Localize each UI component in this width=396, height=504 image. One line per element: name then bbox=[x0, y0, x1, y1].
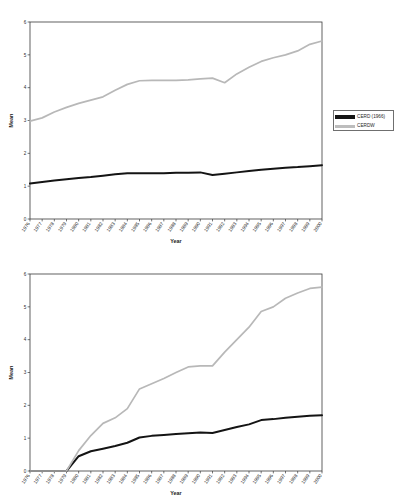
y-tick-label: 4 bbox=[24, 85, 27, 90]
x-tick-label: 1983 bbox=[106, 221, 116, 233]
x-axis-title: Year bbox=[170, 238, 182, 244]
x-tick-label: 1982 bbox=[94, 473, 104, 485]
x-tick-label: 1978 bbox=[45, 473, 55, 485]
legend-label-cerd: CERD (1966) bbox=[357, 114, 385, 120]
x-tick-label: 1981 bbox=[81, 221, 91, 233]
x-tick-label: 1982 bbox=[94, 221, 104, 233]
x-tick-label: 1988 bbox=[167, 473, 177, 485]
y-tick-label: 4 bbox=[24, 337, 27, 342]
y-tick-label: 3 bbox=[24, 370, 27, 375]
x-tick-label: 1989 bbox=[179, 473, 189, 485]
x-tick-label: 1994 bbox=[240, 221, 250, 233]
x-tick-label: 1976 bbox=[21, 473, 31, 485]
x-tick-label: 1985 bbox=[130, 473, 140, 485]
x-tick-label: 1997 bbox=[276, 473, 286, 485]
x-tick-label: 1996 bbox=[264, 221, 274, 233]
x-tick-label: 1987 bbox=[154, 221, 164, 233]
x-tick-label: 1980 bbox=[69, 221, 79, 233]
x-tick-label: 1977 bbox=[33, 473, 43, 485]
legend-label-cerdw: CERDW bbox=[357, 123, 375, 129]
y-axis-title: Mean bbox=[8, 366, 14, 380]
x-tick-label: 1998 bbox=[288, 473, 298, 485]
y-tick-label: 1 bbox=[24, 436, 27, 441]
x-axis-title: Year bbox=[170, 490, 182, 496]
x-tick-label: 1997 bbox=[276, 221, 286, 233]
cedaw-figure: 0123456Mean19761977197819791980198119821… bbox=[0, 252, 396, 504]
plot-frame bbox=[30, 22, 322, 219]
legend-swatch-cerdw bbox=[335, 125, 355, 128]
cerd-figure: 0123456Mean19761977197819791980198119821… bbox=[0, 0, 396, 252]
x-tick-label: 2000 bbox=[313, 473, 323, 485]
x-tick-label: 2000 bbox=[313, 221, 323, 233]
x-tick-label: 1999 bbox=[300, 221, 310, 233]
x-tick-label: 1986 bbox=[142, 473, 152, 485]
x-tick-label: 1992 bbox=[215, 473, 225, 485]
x-tick-label: 1981 bbox=[81, 473, 91, 485]
x-tick-label: 1993 bbox=[227, 473, 237, 485]
x-tick-label: 1994 bbox=[240, 473, 250, 485]
x-tick-label: 1984 bbox=[118, 221, 128, 233]
x-tick-label: 1996 bbox=[264, 473, 274, 485]
y-tick-label: 5 bbox=[24, 53, 27, 58]
y-tick-label: 6 bbox=[24, 272, 27, 277]
x-tick-label: 1991 bbox=[203, 473, 213, 485]
legend-swatch-cerd bbox=[335, 115, 355, 119]
y-tick-label: 2 bbox=[24, 151, 27, 156]
x-tick-label: 1984 bbox=[118, 473, 128, 485]
y-tick-label: 1 bbox=[24, 184, 27, 189]
x-tick-label: 1979 bbox=[57, 221, 67, 233]
x-tick-label: 1986 bbox=[142, 221, 152, 233]
x-tick-label: 1983 bbox=[106, 473, 116, 485]
x-tick-label: 1980 bbox=[69, 473, 79, 485]
x-tick-label: 1988 bbox=[167, 221, 177, 233]
y-tick-label: 5 bbox=[24, 305, 27, 310]
y-axis-title: Mean bbox=[8, 114, 14, 128]
x-tick-label: 1985 bbox=[130, 221, 140, 233]
cerd-legend: CERD (1966) CERDW bbox=[333, 110, 394, 131]
x-tick-label: 1989 bbox=[179, 221, 189, 233]
legend-entry-cerd: CERD (1966) bbox=[335, 113, 391, 121]
x-tick-label: 1998 bbox=[288, 221, 298, 233]
legend-entry-cerdw: CERDW bbox=[335, 122, 391, 130]
x-tick-label: 1990 bbox=[191, 473, 201, 485]
cedaw-chart-canvas: 0123456Mean19761977197819791980198119821… bbox=[0, 252, 396, 504]
x-tick-label: 1987 bbox=[154, 473, 164, 485]
y-tick-label: 2 bbox=[24, 403, 27, 408]
x-tick-label: 1990 bbox=[191, 221, 201, 233]
x-tick-label: 1995 bbox=[252, 473, 262, 485]
y-tick-label: 6 bbox=[24, 20, 27, 25]
x-tick-label: 1978 bbox=[45, 221, 55, 233]
x-tick-label: 1999 bbox=[300, 473, 310, 485]
x-tick-label: 1977 bbox=[33, 221, 43, 233]
y-tick-label: 3 bbox=[24, 118, 27, 123]
x-tick-label: 1995 bbox=[252, 221, 262, 233]
x-tick-label: 1992 bbox=[215, 221, 225, 233]
x-tick-label: 1991 bbox=[203, 221, 213, 233]
x-tick-label: 1993 bbox=[227, 221, 237, 233]
x-tick-label: 1979 bbox=[57, 473, 67, 485]
x-tick-label: 1976 bbox=[21, 221, 31, 233]
